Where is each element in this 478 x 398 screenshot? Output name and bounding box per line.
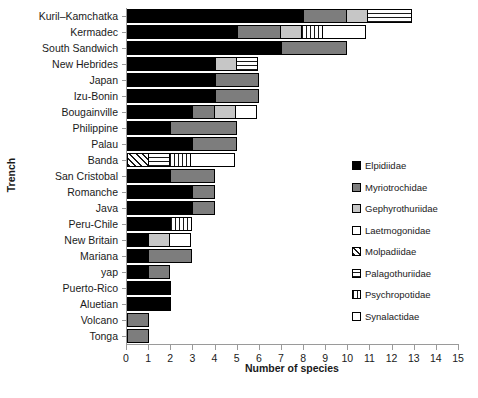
legend-item-gephyrothuriidae[interactable]: Gephyrothuriidae	[352, 198, 476, 220]
legend-swatch-synalactidae	[352, 312, 361, 321]
bar-philippine[interactable]	[127, 121, 237, 135]
bar-segment-myriotrochidae[interactable]	[192, 185, 214, 199]
bar-segment-palagothuriidae[interactable]	[236, 57, 258, 71]
x-axis-tick	[436, 345, 437, 350]
bar-segment-elpidiidae[interactable]	[127, 201, 193, 215]
bar-mariana[interactable]	[127, 249, 192, 263]
bar-segment-elpidiidae[interactable]	[127, 73, 216, 87]
bar-segment-gephyrothuriidae[interactable]	[148, 233, 170, 247]
x-axis-tick	[215, 345, 216, 350]
bar-san-cristobal[interactable]	[127, 169, 215, 183]
bar-segment-gephyrothuriidae[interactable]	[280, 25, 302, 39]
bar-segment-elpidiidae[interactable]	[127, 25, 238, 39]
bar-banda[interactable]	[127, 153, 235, 167]
bar-segment-myriotrochidae[interactable]	[192, 201, 214, 215]
y-axis-tick	[122, 160, 126, 161]
bar-segment-myriotrochidae[interactable]	[237, 25, 281, 39]
bar-segment-myriotrochidae[interactable]	[170, 169, 214, 183]
bar-segment-elpidiidae[interactable]	[127, 57, 216, 71]
bar-segment-myriotrochidae[interactable]	[215, 89, 259, 103]
legend-item-synalactidae[interactable]: Synalactidae	[352, 306, 476, 328]
bar-segment-gephyrothuriidae[interactable]	[346, 9, 368, 23]
category-label-column: Kuril–KamchatkaKermadecSouth SandwichNew…	[18, 8, 122, 344]
bar-segment-psychropotidae[interactable]	[170, 217, 192, 231]
bar-segment-elpidiidae[interactable]	[127, 185, 193, 199]
bar-segment-elpidiidae[interactable]	[127, 297, 171, 311]
bar-palau[interactable]	[127, 137, 237, 151]
bar-segment-elpidiidae[interactable]	[127, 169, 171, 183]
category-label-south-sandwich: South Sandwich	[18, 43, 118, 54]
category-label-new-hebrides: New Hebrides	[18, 59, 118, 70]
legend-label-elpidiidae: Elpidiidae	[365, 161, 406, 171]
bar-south-sandwich[interactable]	[127, 41, 347, 55]
category-label-palau: Palau	[18, 139, 118, 150]
bar-yap[interactable]	[127, 265, 170, 279]
bar-segment-myriotrochidae[interactable]	[127, 329, 149, 343]
y-axis-tick	[122, 16, 126, 17]
y-axis-tick	[122, 240, 126, 241]
bar-segment-elpidiidae[interactable]	[127, 41, 282, 55]
legend-item-laetmogonidae[interactable]: Laetmogonidae	[352, 220, 476, 242]
bar-segment-myriotrochidae[interactable]	[215, 73, 259, 87]
bar-segment-synalactidae[interactable]	[169, 233, 191, 247]
bar-segment-myriotrochidae[interactable]	[148, 249, 192, 263]
bar-segment-elpidiidae[interactable]	[127, 121, 171, 135]
bar-kuril-kamchatka[interactable]	[127, 9, 412, 23]
bar-segment-psychropotidae[interactable]	[301, 25, 323, 39]
bar-new-britain[interactable]	[127, 233, 191, 247]
legend-swatch-palagothuriidae	[352, 269, 361, 278]
y-axis-tick	[122, 64, 126, 65]
bar-segment-gephyrothuriidae[interactable]	[215, 57, 237, 71]
legend-label-psychropotidae: Psychropotidae	[365, 290, 430, 300]
legend-item-palagothuriidae[interactable]: Palagothuriidae	[352, 263, 476, 285]
bar-aluetian[interactable]	[127, 297, 171, 311]
bar-japan[interactable]	[127, 73, 259, 87]
bar-segment-myriotrochidae[interactable]	[281, 41, 347, 55]
bar-puerto-rico[interactable]	[127, 281, 171, 295]
bar-bougainville[interactable]	[127, 105, 257, 119]
bar-segment-psychropotidae[interactable]	[169, 153, 191, 167]
bar-segment-synalactidae[interactable]	[235, 105, 257, 119]
legend-item-elpidiidae[interactable]: Elpidiidae	[352, 155, 476, 177]
bar-tonga[interactable]	[127, 329, 149, 343]
bar-segment-palagothuriidae[interactable]	[367, 9, 411, 23]
legend-item-psychropotidae[interactable]: Psychropotidae	[352, 284, 476, 306]
bar-kermadec[interactable]	[127, 25, 366, 39]
y-axis-tick	[122, 96, 126, 97]
bar-segment-myriotrochidae[interactable]	[192, 137, 236, 151]
bar-segment-myriotrochidae[interactable]	[170, 121, 236, 135]
bar-segment-elpidiidae[interactable]	[127, 89, 216, 103]
bar-segment-elpidiidae[interactable]	[127, 233, 149, 247]
bar-new-hebrides[interactable]	[127, 57, 258, 71]
bar-segment-myriotrochidae[interactable]	[148, 265, 170, 279]
bar-segment-elpidiidae[interactable]	[127, 265, 149, 279]
bar-segment-elpidiidae[interactable]	[127, 9, 304, 23]
legend-item-myriotrochidae[interactable]: Myriotrochidae	[352, 177, 476, 199]
bar-segment-molpadiidae[interactable]	[127, 153, 149, 167]
x-axis-tick	[458, 345, 459, 350]
bar-segment-myriotrochidae[interactable]	[127, 313, 149, 327]
bar-segment-myriotrochidae[interactable]	[303, 9, 347, 23]
bar-volcano[interactable]	[127, 313, 149, 327]
x-axis-title: Number of species	[126, 362, 458, 374]
legend-item-molpadiidae[interactable]: Molpadiidae	[352, 241, 476, 263]
x-axis-tick	[347, 345, 348, 350]
bar-izu-bonin[interactable]	[127, 89, 259, 103]
bar-java[interactable]	[127, 201, 215, 215]
bar-segment-elpidiidae[interactable]	[127, 217, 171, 231]
bar-segment-palagothuriidae[interactable]	[148, 153, 170, 167]
bar-romanche[interactable]	[127, 185, 215, 199]
bar-segment-myriotrochidae[interactable]	[192, 105, 214, 119]
category-label-new-britain: New Britain	[18, 235, 118, 246]
bar-segment-elpidiidae[interactable]	[127, 105, 193, 119]
x-axis-tick	[237, 345, 238, 350]
bar-segment-synalactidae[interactable]	[322, 25, 366, 39]
bar-segment-elpidiidae[interactable]	[127, 137, 193, 151]
bar-segment-synalactidae[interactable]	[190, 153, 234, 167]
bar-segment-elpidiidae[interactable]	[127, 281, 171, 295]
species-per-trench-chart: Trench Kuril–KamchatkaKermadecSouth Sand…	[0, 0, 478, 398]
bar-peru-chile[interactable]	[127, 217, 192, 231]
bar-segment-elpidiidae[interactable]	[127, 249, 149, 263]
category-label-bougainville: Bougainville	[18, 107, 118, 118]
bar-segment-gephyrothuriidae[interactable]	[214, 105, 236, 119]
